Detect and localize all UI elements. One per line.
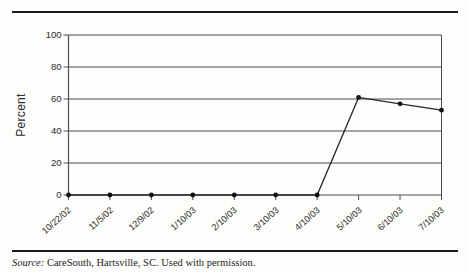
data-point-marker	[66, 193, 71, 198]
x-tick-label: 10/22/02	[40, 205, 73, 236]
source-label: Source:	[12, 257, 44, 268]
bottom-rule	[12, 250, 458, 252]
y-tick-label: 100	[32, 30, 62, 40]
data-point-marker	[273, 193, 278, 198]
data-point-marker	[439, 108, 444, 113]
x-tick-label: 6/10/03	[376, 205, 405, 233]
data-point-marker	[149, 193, 154, 198]
x-tick-label: 4/10/03	[293, 205, 322, 233]
x-tick-label: 3/10/03	[251, 205, 280, 233]
data-point-marker	[356, 95, 361, 100]
y-tick-label: 0	[32, 190, 62, 200]
y-tick-label: 20	[32, 158, 62, 168]
y-axis-title: Percent	[14, 93, 28, 136]
x-tick-label: 11/5/02	[86, 205, 115, 232]
x-tick-label: 2/10/03	[210, 205, 239, 233]
data-point-marker	[108, 193, 113, 198]
percent-line-chart: Percent 02040608010010/22/0211/5/0212/9/…	[0, 0, 469, 273]
source-text: CareSouth, Hartsville, SC. Used with per…	[44, 257, 255, 268]
source-note: Source: CareSouth, Hartsville, SC. Used …	[12, 257, 255, 268]
y-tick-label: 40	[32, 126, 62, 136]
data-point-marker	[315, 193, 320, 198]
data-line	[69, 97, 442, 195]
data-point-marker	[398, 101, 403, 106]
y-tick-label: 80	[32, 62, 62, 72]
x-tick-label: 5/10/03	[334, 205, 363, 233]
x-tick-label: 7/10/03	[417, 205, 446, 233]
chart-canvas	[0, 0, 469, 273]
data-point-marker	[232, 193, 237, 198]
y-tick-label: 60	[32, 94, 62, 104]
x-tick-label: 12/9/02	[127, 205, 156, 233]
figure-page: Percent 02040608010010/22/0211/5/0212/9/…	[0, 0, 469, 273]
x-tick-label: 1/10/03	[169, 205, 198, 233]
data-point-marker	[190, 193, 195, 198]
